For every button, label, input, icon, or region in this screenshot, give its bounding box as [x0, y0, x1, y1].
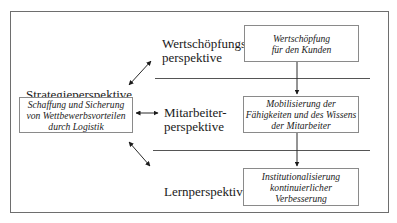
double-arrow-strategy-value: [129, 61, 151, 85]
connector-arrows: [0, 0, 397, 223]
double-arrow-strategy-learning: [129, 142, 150, 166]
